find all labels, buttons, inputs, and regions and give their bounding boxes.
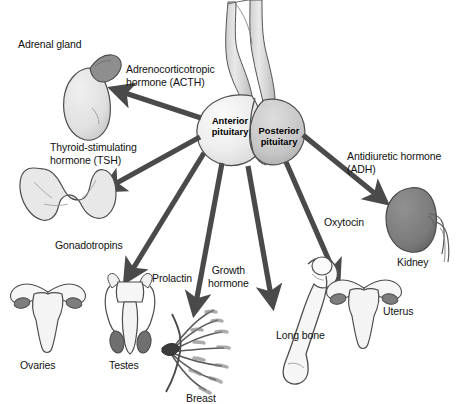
penis-urethra <box>123 302 138 354</box>
label-testes: Testes <box>109 359 139 372</box>
label-growth-hormone: Growth hormone <box>208 264 249 290</box>
label-long-bone: Long bone <box>276 329 325 342</box>
nipple <box>162 344 180 356</box>
thyroid-lobes <box>20 168 116 220</box>
arrow-growth-hormone <box>248 166 271 296</box>
adrenal-medulla-cap <box>90 55 121 82</box>
label-adh: Antidiuretic hormone (ADH) <box>347 150 441 176</box>
label-acth: Adrenocorticotropic hormone (ACTH) <box>126 63 215 89</box>
kidney-body <box>386 188 437 253</box>
infundibulum-stalk <box>226 2 252 108</box>
hypothalamus-contour <box>228 0 330 4</box>
diagram-canvas <box>0 0 461 404</box>
bladder-prostate <box>117 282 144 302</box>
right-testis <box>136 330 153 354</box>
uterus-body <box>349 289 379 349</box>
ureter-outer <box>436 222 449 262</box>
breast-illustration <box>162 310 229 393</box>
arrow-acth <box>122 92 201 118</box>
label-oxytocin: Oxytocin <box>324 216 364 229</box>
uterus-body-left <box>33 293 63 353</box>
testes-illustration <box>105 273 155 354</box>
label-prolactin: Prolactin <box>152 272 192 285</box>
label-adrenal-gland: Adrenal gland <box>18 38 82 51</box>
long-bone-illustration <box>283 257 337 384</box>
endocrine-diagram: Adrenal gland Adrenocorticotropic hormon… <box>0 0 461 404</box>
label-ovaries: Ovaries <box>20 359 55 372</box>
label-gonadotropins: Gonadotropins <box>55 239 123 252</box>
ovaries-illustration <box>11 284 86 353</box>
femoral-head <box>312 257 332 275</box>
label-tsh: Thyroid-stimulating hormone (TSH) <box>50 141 137 167</box>
thyroid-gland-illustration <box>20 168 116 220</box>
label-breast: Breast <box>186 392 216 404</box>
label-kidney: Kidney <box>397 256 429 269</box>
stalk-right-edge <box>250 0 275 106</box>
label-posterior-pituitary: Posterior pituitary <box>250 126 308 147</box>
femur-outline <box>283 258 337 384</box>
adrenal-gland-illustration <box>64 55 122 140</box>
kidney-illustration <box>386 188 449 262</box>
label-uterus: Uterus <box>383 305 413 318</box>
